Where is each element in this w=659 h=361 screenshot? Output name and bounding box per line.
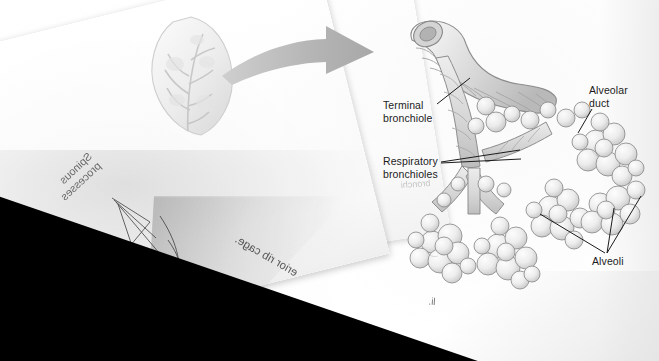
label-alveolar-duct-line1: Alveolar bbox=[589, 84, 628, 97]
label-respiratory-bronchioles-line1: Respiratory bbox=[383, 155, 438, 168]
label-respiratory-bronchioles: Respiratory bronchioles bbox=[383, 155, 438, 180]
scanned-page-canvas: Terminal bronchiole Respiratory bronchio… bbox=[0, 0, 659, 361]
label-alveolar-duct-line2: duct bbox=[589, 97, 628, 110]
bronchiole-alveoli-illustration bbox=[400, 18, 659, 293]
magnification-arrow-icon bbox=[222, 22, 382, 97]
label-terminal-bronchiole: Terminal bronchiole bbox=[383, 99, 432, 124]
showthrough-fragment: li. bbox=[428, 295, 436, 306]
label-terminal-bronchiole-line1: Terminal bbox=[383, 99, 432, 112]
label-alveolar-duct: Alveolar duct bbox=[589, 84, 628, 109]
label-alveoli: Alveoli bbox=[592, 255, 624, 268]
label-terminal-bronchiole-line2: bronchiole bbox=[383, 112, 432, 125]
showthrough-bronchioles-faint: bronchi bbox=[401, 178, 431, 190]
